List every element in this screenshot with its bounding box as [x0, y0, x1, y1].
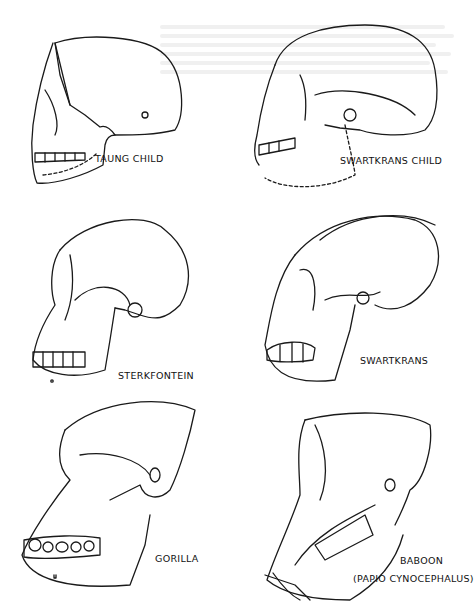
- caption-swartkrans-child: SWARTKRANS CHILD: [340, 155, 442, 166]
- caption-swartkrans: SWARTKRANS: [360, 355, 428, 366]
- caption-gorilla: GORILLA: [155, 553, 199, 564]
- figure-swartkrans-child: SWARTKRANS CHILD: [245, 20, 455, 190]
- caption-baboon: BABOON: [400, 555, 443, 566]
- figure-gorilla: GORILLA: [10, 395, 210, 595]
- figure-taung-child: TAUNG CHILD: [25, 35, 185, 195]
- figure-baboon: BABOON (PAPIO CYNOCEPHALUS): [255, 405, 465, 605]
- taung-child-skull-drawing: [25, 35, 185, 195]
- figure-sterkfontein: STERKFONTEIN: [15, 210, 205, 385]
- figure-swartkrans: SWARTKRANS: [255, 200, 455, 390]
- caption-taung-child: TAUNG CHILD: [95, 153, 164, 164]
- caption-baboon-species: (PAPIO CYNOCEPHALUS): [353, 573, 474, 584]
- sterkfontein-skull-drawing: [15, 210, 205, 385]
- caption-sterkfontein: STERKFONTEIN: [118, 370, 194, 381]
- book-page: TAUNG CHILD SWARTKRANS CHILD STERKFONTEI: [0, 0, 475, 612]
- gorilla-skull-drawing: [10, 395, 210, 595]
